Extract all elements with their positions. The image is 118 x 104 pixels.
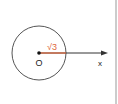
arrowhead-icon	[101, 51, 108, 56]
origin-point	[37, 51, 41, 55]
origin-label: O	[35, 58, 42, 68]
circle-diagram: O x √3	[0, 0, 118, 104]
axis-label: x	[98, 59, 102, 68]
radius-label: √3	[47, 42, 57, 52]
